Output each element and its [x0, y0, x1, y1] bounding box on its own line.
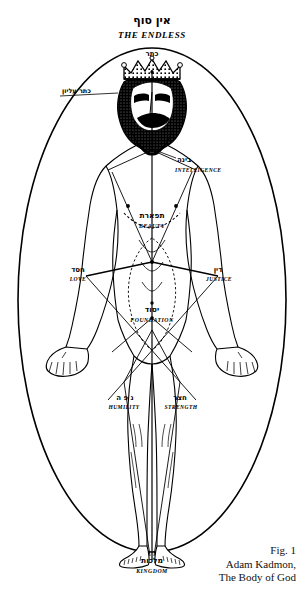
- ein-sof-english: THE ENDLESS: [118, 30, 186, 40]
- label-din-hebrew: דין: [214, 266, 223, 274]
- caption-fig-number: Fig. 1: [219, 544, 296, 558]
- label-tiferet-hebrew: תפארת: [139, 211, 164, 220]
- label-din-english: JUSTICE: [205, 276, 232, 282]
- label-keter-hebrew: כתר: [146, 50, 159, 58]
- label-crown-side-hebrew: כתר עליון: [62, 87, 91, 95]
- label-chesed-hebrew: חסד: [71, 266, 85, 274]
- adam-kadmon-diagram: אין סוף THE ENDLESS: [0, 0, 304, 601]
- label-malkhut-hebrew: מלכות: [141, 556, 163, 565]
- node-keter: [150, 70, 153, 73]
- label-tiferet-english: BEAUTY: [138, 223, 165, 229]
- label-chesed-english: LOVE: [69, 276, 87, 282]
- label-yesod-hebrew: יסוד: [145, 305, 159, 314]
- ein-sof-hebrew: אין סוף: [133, 14, 171, 27]
- caption-title: Adam Kadmon,: [219, 558, 296, 572]
- label-binah-english: INTELLIGENCE: [174, 167, 221, 173]
- label-yesod-english: FOUNDATION: [130, 317, 174, 323]
- node-tiferet: [150, 260, 154, 264]
- label-malkhut-english: KINGDOM: [135, 568, 168, 574]
- caption-subtitle: The Body of God: [219, 571, 296, 585]
- figure-caption: Fig. 1 Adam Kadmon, The Body of God: [219, 544, 296, 585]
- label-netzach-hebrew: חצר: [173, 394, 187, 402]
- label-hod-english: HUMILITY: [107, 404, 139, 410]
- figure-page: אין סוף THE ENDLESS: [0, 0, 304, 601]
- label-binah-hebrew: בינה: [177, 156, 191, 164]
- label-hod-hebrew: נ פ ה: [116, 394, 133, 402]
- label-netzach-english: STRENGTH: [164, 404, 197, 410]
